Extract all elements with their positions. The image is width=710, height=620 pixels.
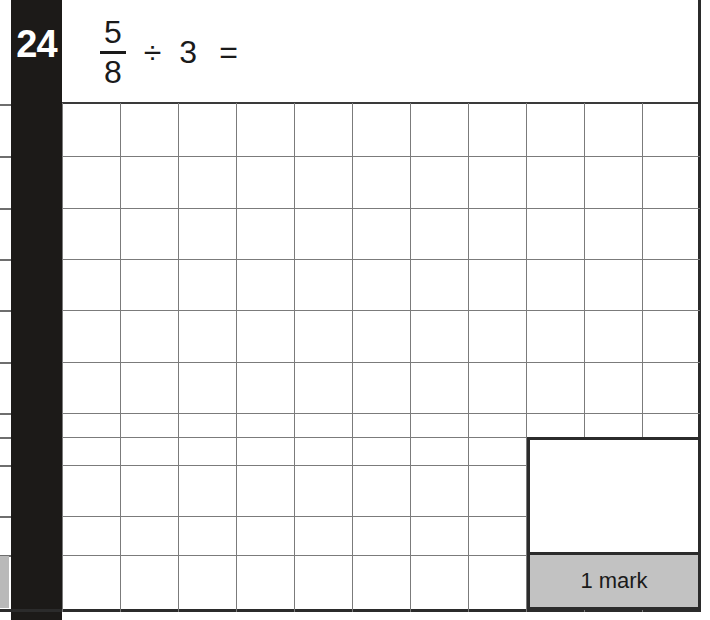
mark-strip: 1 mark [530,552,698,607]
grid-line-vertical [352,103,353,612]
equals-sign: = [219,36,238,68]
grid-line-vertical [410,103,411,612]
grid-line-horizontal [62,413,700,414]
fraction-denominator: 8 [98,55,128,89]
fraction-numerator: 5 [98,16,128,50]
margin-mark-patch [0,556,9,608]
mark-box: 1 mark [527,437,701,610]
grid-line-vertical [120,103,121,612]
grid-line-horizontal [62,259,700,260]
question-number-bar [11,0,62,620]
grid-line-vertical [236,103,237,612]
grid-line-vertical [468,103,469,612]
grid-line-horizontal [62,362,700,363]
grid-line-horizontal [62,156,700,157]
exam-question-page: 24 5 8 ÷ 3 = [0,0,710,620]
math-expression: 5 8 ÷ 3 = [98,8,238,96]
question-header: 5 8 ÷ 3 = [62,0,700,103]
answer-entry-box[interactable] [530,440,698,552]
fraction-five-eighths: 5 8 [98,16,128,88]
mark-label: 1 mark [580,568,647,594]
division-operator: ÷ [144,36,162,68]
grid-line-vertical [178,103,179,612]
grid-line-horizontal [62,310,700,311]
question-number: 24 [11,20,62,68]
divisor-operand: 3 [179,36,197,68]
grid-line-vertical [62,103,63,612]
grid-line-vertical [294,103,295,612]
grid-line-horizontal [62,208,700,209]
